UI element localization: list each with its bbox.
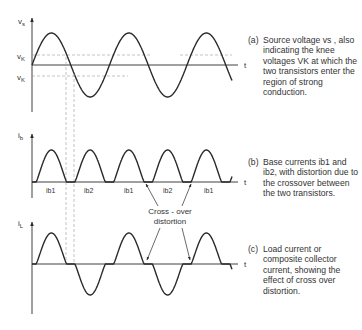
panel-a-source-voltage: vs vK vK t (17, 17, 247, 112)
pulse-label: ib2 (163, 187, 172, 194)
pulse-label: ib1 (124, 187, 133, 194)
annotation-arrow-c2 (182, 228, 190, 260)
caption-a-label: (a) (248, 35, 259, 45)
pulse-label: ib1 (204, 187, 213, 194)
caption-c: (c) Load current or composite collector … (248, 244, 360, 296)
caption-c-text: Load current or composite collector curr… (263, 244, 360, 296)
base-current-pulses (32, 150, 232, 182)
caption-a: (a) Source voltage vs , also indicating … (248, 35, 360, 97)
panel-b-base-currents: ib t ib1ib2ib1ib2ib1 (18, 131, 247, 206)
annotation-arrow-b1 (146, 184, 158, 206)
caption-b: (b) Base currents ib1 and ib2, with dist… (248, 157, 360, 199)
panel-a-ylabel: vs (18, 17, 25, 27)
caption-a-text: Source voltage vs , also indicating the … (263, 35, 360, 97)
panel-c-tlabel: t (244, 260, 247, 269)
panel-c-load-current: iL t (18, 219, 247, 314)
knee-lower-label: vK (17, 73, 25, 83)
panel-b-tlabel: t (244, 178, 247, 187)
caption-b-text: Base currents ib1 and ib2, with distorti… (263, 157, 360, 199)
caption-b-label: (b) (248, 157, 259, 167)
crossover-annotation-line2: distortion (154, 217, 186, 226)
panel-b-ylabel: ib (18, 131, 24, 141)
panel-a-tlabel: t (244, 61, 247, 70)
panel-c-ylabel: iL (18, 219, 24, 229)
pulse-label: ib1 (46, 187, 55, 194)
caption-c-label: (c) (248, 244, 258, 254)
crossover-annotation-line1: Cross - over (148, 207, 192, 216)
annotation-arrow-b2 (182, 184, 191, 206)
annotation-arrow-c1 (147, 228, 160, 260)
knee-upper-label: vK (17, 52, 25, 62)
pulse-label: ib2 (84, 187, 93, 194)
